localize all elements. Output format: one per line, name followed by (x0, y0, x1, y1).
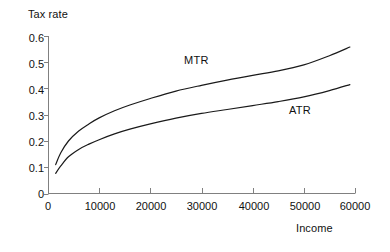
series-line-atr (56, 85, 350, 174)
series-line-mtr (56, 47, 350, 165)
x-axis-ticks (49, 188, 356, 194)
axis-lines (48, 36, 355, 194)
y-axis-ticks (44, 37, 49, 195)
tax-rate-chart: Tax rate Income 0 0.1 0.2 0.3 0.4 0.5 0.… (0, 0, 390, 252)
plot-area (0, 0, 390, 252)
